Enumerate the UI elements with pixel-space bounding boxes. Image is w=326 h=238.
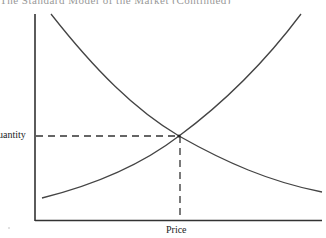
demand-curve	[51, 14, 322, 192]
chart-canvas	[0, 0, 326, 238]
scan-speck	[8, 227, 10, 229]
supply-curve	[42, 14, 301, 198]
x-axis-label: Price	[166, 224, 187, 235]
equilibrium-point	[177, 134, 180, 137]
supply-demand-chart: The Standard Model of the Market (Contin…	[0, 0, 326, 238]
y-axis-label: uantity	[0, 129, 26, 140]
